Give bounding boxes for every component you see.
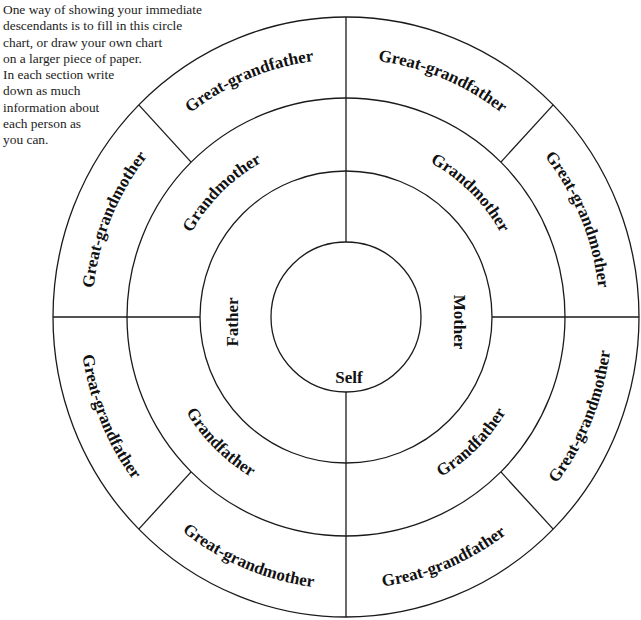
label-great-grandmother-left-upper: Great-grandmother (79, 147, 151, 289)
divider-diag-lr (501, 472, 553, 529)
label-grandfather-lower-right: Grandfather (433, 404, 510, 481)
divider-diag-ll (139, 472, 191, 529)
divider-diag-ur (501, 105, 553, 162)
label-mother: Mother (450, 295, 469, 350)
divider-diag-ul (139, 105, 191, 162)
label-father: Father (223, 297, 242, 347)
label-grandfather-lower-left: Grandfather (183, 404, 260, 481)
label-great-grandmother-right-lower: Great-grandmother (544, 349, 614, 486)
family-circle-chart: Self Father Mother Grandmother Grandmoth… (0, 0, 641, 620)
label-self: Self (335, 368, 363, 387)
label-great-grandfather-bottom-right: Great-grandfather (380, 522, 509, 591)
label-great-grandmother-right-upper: Great-grandmother (541, 147, 613, 289)
label-great-grandfather-left-lower: Great-grandfather (79, 353, 146, 483)
